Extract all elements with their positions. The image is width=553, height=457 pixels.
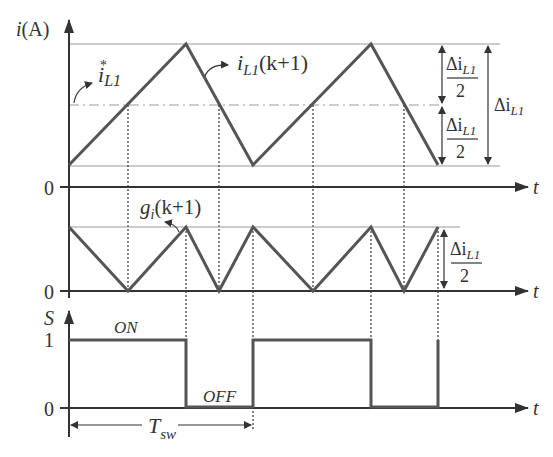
zero-label-cost: 0 <box>44 281 54 303</box>
y-axis-label-unit: (A) <box>22 18 50 41</box>
panel-cost-function: 0 t gi(k+1) ΔiL1 2 <box>44 190 539 303</box>
period-label: Tsw <box>148 413 176 442</box>
svg-text:ΔiL1: ΔiL1 <box>450 239 480 262</box>
half-ripple-upper-label: ΔiL1 2 <box>446 54 478 101</box>
timing-diagram: i(A) 0 t i*L1 iL1(k+1) ΔiL1 2 ΔiL1 2 ΔiL… <box>0 0 553 457</box>
panel-switching-signal: S 1 0 t ON OFF Tsw <box>44 307 539 442</box>
reference-label: i*L1 <box>98 58 121 89</box>
current-pointer-arrow <box>205 65 228 76</box>
svg-text:ΔiL1: ΔiL1 <box>446 115 476 138</box>
half-ripple-lower-label: ΔiL1 2 <box>446 115 478 162</box>
switching-waveform <box>69 340 438 407</box>
panel-inductor-current: i(A) 0 t i*L1 iL1(k+1) ΔiL1 2 ΔiL1 2 ΔiL… <box>16 18 539 199</box>
t-label-cost: t <box>533 280 539 302</box>
svg-text:ΔiL1: ΔiL1 <box>446 54 476 77</box>
t-label-current: t <box>533 176 539 198</box>
svg-text:2: 2 <box>456 81 465 101</box>
amplitude-label: ΔiL1 2 <box>450 239 482 286</box>
svg-text:2: 2 <box>456 142 465 162</box>
zero-label-switch: 0 <box>44 398 54 420</box>
y-axis-label-switch: S <box>44 307 54 329</box>
t-label-switch: t <box>533 397 539 419</box>
zero-label-current: 0 <box>44 177 54 199</box>
svg-text:2: 2 <box>460 266 469 286</box>
off-label: OFF <box>203 387 237 406</box>
reference-pointer-arrow <box>74 83 92 103</box>
y-axis-label-current: i(A) <box>16 18 49 41</box>
ripple-label: ΔiL1 <box>494 95 524 118</box>
current-label: iL1(k+1) <box>237 50 308 78</box>
one-label: 1 <box>44 329 54 351</box>
on-label: ON <box>114 318 139 337</box>
cost-function-label: gi(k+1) <box>140 195 201 222</box>
